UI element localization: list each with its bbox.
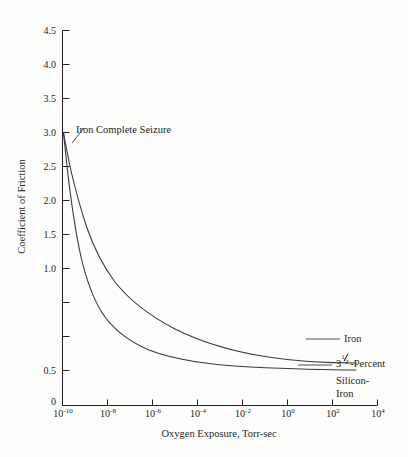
ytick-label-2-5: 2.5 — [22, 162, 56, 172]
xtick-label-1e-6: 10-6 — [134, 409, 172, 419]
xtick-exponent: -4 — [200, 407, 206, 415]
xtick-base: 10 — [145, 408, 155, 419]
xtick-label-1e4: 104 — [359, 409, 397, 419]
y-axis-title: Coefficient of Friction — [16, 137, 27, 277]
xtick-exponent: -2 — [245, 407, 251, 415]
xtick-label-1e-2: 10-2 — [224, 409, 262, 419]
annotation-iron-complete-seizure: Iron Complete Seizure — [76, 123, 171, 136]
y-axis-ticks — [63, 31, 70, 371]
silicon-suffix: -Percent — [350, 358, 385, 369]
ytick-label-0: 0 — [38, 397, 56, 407]
ytick-label-1-0: 1.0 — [22, 264, 56, 274]
xtick-base: 10 — [281, 408, 291, 419]
xtick-base: 10 — [190, 408, 200, 419]
xtick-base: 10 — [53, 408, 63, 419]
axis-lines — [63, 31, 378, 406]
xtick-base: 10 — [100, 408, 110, 419]
figure-oxygen-exposure-friction: 4.5 4.0 3.5 3.0 2.5 2.0 1.5 1.0 0.5 0 10… — [0, 0, 408, 457]
ytick-label-1-5: 1.5 — [22, 230, 56, 240]
ytick-label-4-5: 4.5 — [22, 26, 56, 36]
xtick-label-1e0: 100 — [269, 409, 307, 419]
series-label-silicon-iron-lines: Silicon-Iron — [336, 374, 369, 400]
xtick-exponent: -6 — [155, 407, 161, 415]
ytick-label-4-0: 4.0 — [22, 60, 56, 70]
xtick-base: 10 — [326, 408, 336, 419]
ytick-label-3-0: 3.0 — [22, 128, 56, 138]
xtick-label-1e2: 102 — [314, 409, 352, 419]
xtick-exponent: -10 — [63, 407, 72, 415]
series-label-silicon-iron-percent: 312-Percent — [336, 356, 385, 370]
xtick-base: 10 — [235, 408, 245, 419]
xtick-exponent: 4 — [381, 407, 385, 415]
x-axis-ticks — [63, 400, 378, 406]
xtick-exponent: 2 — [336, 407, 340, 415]
x-axis-title: Oxygen Exposure, Torr-sec — [60, 428, 378, 439]
fraction-denominator: 2 — [345, 358, 349, 367]
xtick-label-1e-8: 10-8 — [89, 409, 127, 419]
xtick-label-1e-10: 10-10 — [44, 409, 82, 419]
curve-silicon-iron — [64, 133, 357, 370]
xtick-exponent: 0 — [291, 407, 295, 415]
curve-iron — [64, 133, 357, 363]
ytick-label-0-5: 0.5 — [22, 366, 56, 376]
ytick-label-3-5: 3.5 — [22, 94, 56, 104]
silicon-line2: Silicon- — [336, 375, 369, 386]
xtick-exponent: -8 — [110, 407, 116, 415]
xtick-label-1e-4: 10-4 — [179, 409, 217, 419]
xtick-base: 10 — [371, 408, 381, 419]
one-half-fraction: 12 — [341, 356, 350, 367]
series-label-iron: Iron — [344, 332, 362, 345]
ytick-label-2-0: 2.0 — [22, 196, 56, 206]
silicon-line3: Iron — [336, 388, 354, 399]
